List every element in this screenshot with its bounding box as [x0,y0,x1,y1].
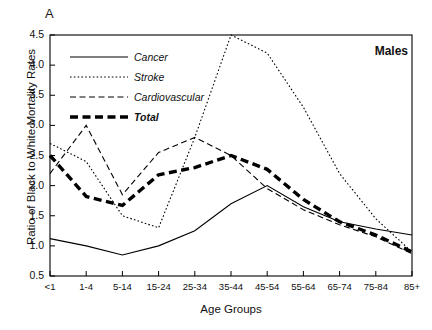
series-line-cardiovascular [50,125,412,253]
legend-label-cardiovascular: Cardiovascular [134,91,205,103]
legend-label-cancer: Cancer [134,51,168,63]
plot-canvas: CancerStrokeCardiovascularTotal [0,0,432,330]
data-series-layer [50,35,412,255]
legend-label-total: Total [134,111,160,123]
legend-label-stroke: Stroke [134,71,165,83]
chart-figure: A Males Ratio of Black to White Mortalit… [0,0,432,330]
chart-legend: CancerStrokeCardiovascularTotal [70,51,205,123]
series-line-stroke [50,35,412,252]
